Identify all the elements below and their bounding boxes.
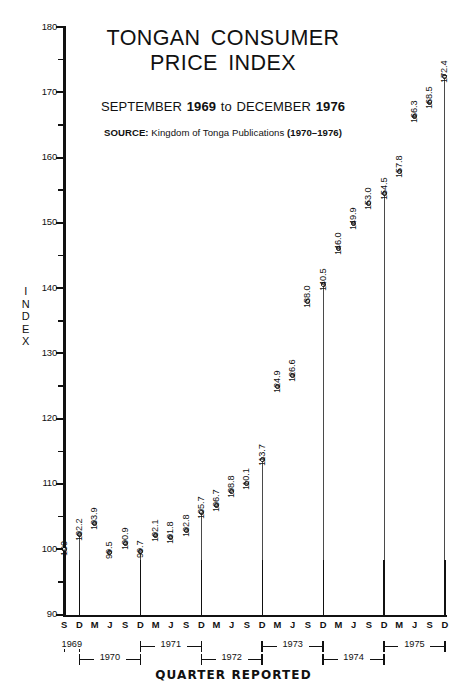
data-point-label: 102.2 [74,519,84,542]
data-point-label: 100.9 [120,527,130,550]
x-quarter-label: S [58,619,70,630]
x-quarter-label: S [119,619,131,630]
x-quarter-label: M [271,619,283,630]
year-bracket-cap [322,641,323,652]
x-quarter-label: D [317,619,329,630]
data-point-label: 99.5 [104,542,114,559]
data-point-label: 102.1 [150,520,160,543]
year-bracket-label: 1971 [155,639,187,649]
data-point-label: 108.8 [226,476,236,499]
data-point-label: 172.4 [439,61,449,84]
data-point-label: 153.0 [363,187,373,210]
data-point-label: 126.6 [287,360,297,383]
x-quarter-label: J [104,619,116,630]
x-quarter-label: J [408,619,420,630]
year-bracket-cap [383,641,384,652]
x-quarter-label: S [363,619,375,630]
x-quarter-label: D [73,619,85,630]
x-quarter-label: M [89,619,101,630]
x-quarter-label: M [393,619,405,630]
data-point-label: 113.7 [257,444,267,466]
x-quarter-gridline [201,560,202,615]
x-quarter-label: D [134,619,146,630]
year-bracket-cap [322,654,323,665]
data-point-label: 99.7 [135,540,145,557]
year-bracket-cap [140,654,141,665]
year-bracket-label: 1972 [216,652,248,662]
x-quarter-label: M [150,619,162,630]
x-quarter-label: M [211,619,223,630]
year-bracket-cap [261,654,262,665]
data-point-label: 102.8 [181,515,191,538]
x-quarter-gridline [444,560,445,615]
data-point-label: 100 [59,541,69,556]
data-point-label: 101.8 [165,521,175,544]
x-quarter-gridline [262,560,263,615]
x-quarter-gridline [140,560,141,615]
data-point-label: 138.0 [302,285,312,308]
data-point-label: 124.9 [272,371,282,394]
year-bracket-cap [201,641,202,652]
x-quarter-label: S [302,619,314,630]
x-quarter-label: S [241,619,253,630]
data-point-label: 105.7 [196,496,206,519]
x-axis-title: QUARTER REPORTED [0,668,467,682]
plot-area: 90100110120130140150160170180 INDEX TONG… [0,0,467,693]
data-label-group: 100102.2103.999.5100.999.7102.1101.8102.… [0,0,467,693]
x-quarter-label: D [195,619,207,630]
x-quarter-label: D [439,619,451,630]
year-bracket-cap [261,641,262,652]
data-point-label: 110.1 [241,468,251,490]
year-bracket-cap [444,641,445,652]
data-point-label: 149.9 [348,207,358,230]
data-point-label: 168.5 [424,86,434,109]
year-bracket-cap [79,654,80,665]
year-bracket-label: 1970 [94,652,126,662]
x-quarter-label: J [226,619,238,630]
x-quarter-gridline [323,560,324,615]
data-point-label: 140.5 [318,269,328,292]
x-quarter-label: S [424,619,436,630]
year-bracket-label: 1973 [277,639,309,649]
year-bracket-cap [383,654,384,665]
x-quarter-label: J [165,619,177,630]
data-point-label: 103.9 [89,508,99,531]
year-bracket-cap [201,654,202,665]
data-point-label: 146.0 [333,233,343,256]
x-quarter-label: D [378,619,390,630]
x-quarter-gridline [79,560,80,615]
x-quarter-label: J [348,619,360,630]
data-point-label: 106.7 [211,489,221,512]
year-bracket-label: 1975 [398,639,430,649]
x-quarter-label: S [180,619,192,630]
data-point-label: 166.3 [409,100,419,123]
x-quarter-gridline [383,560,384,615]
data-point-label: 154.5 [379,177,389,200]
data-point-label: 157.8 [394,156,404,179]
year-bracket-label: 1974 [338,652,370,662]
x-quarter-label: M [332,619,344,630]
x-quarter-label: J [287,619,299,630]
chart-figure: 90100110120130140150160170180 INDEX TONG… [0,0,467,693]
year-bracket-cap [140,641,141,652]
x-quarter-label: D [256,619,268,630]
year-bracket-label: 1969 [56,639,88,649]
